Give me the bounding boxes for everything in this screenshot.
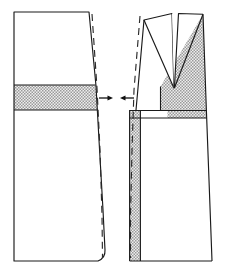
right-pattern-piece xyxy=(129,14,212,262)
pattern-drawing xyxy=(0,0,229,277)
left-piece-hatch-band xyxy=(14,85,98,110)
left-piece-body xyxy=(14,12,105,261)
left-pattern-piece xyxy=(14,12,105,261)
figure-container xyxy=(0,0,229,277)
